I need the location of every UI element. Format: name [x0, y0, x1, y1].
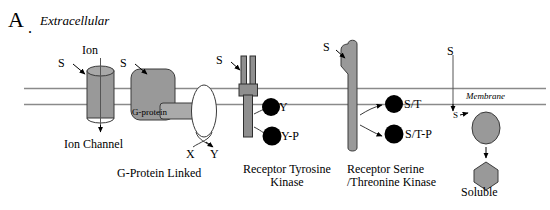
signal-label-soluble-internal: S [453, 111, 458, 120]
signal-label-tyrosine-kinase: S [216, 54, 223, 67]
ion-channel-receptor [73, 58, 114, 132]
serine-threonine-phospho-substrate [385, 125, 404, 144]
serine-threonine-phospho-label: S/T-P [405, 128, 432, 141]
caption-receptor-tyrosine-kinase: Receptor Tyrosine Kinase [232, 163, 342, 188]
signal-label-ion-channel: S [58, 57, 65, 70]
g-protein-label: G-protein [132, 108, 167, 117]
membrane-label: Membrane [466, 92, 505, 101]
caption-rtk-line-2: Kinase [232, 176, 342, 189]
receptor-serine-threonine-kinase-receptor [336, 40, 404, 151]
effector-y-label: Y [210, 148, 219, 161]
caption-rstk-line-2: /Threonine Kinase [347, 176, 472, 189]
tyrosine-substrate [262, 98, 280, 116]
ion-label: Ion [82, 44, 98, 57]
caption-receptor-serine-threonine-kinase: Receptor Serine /Threonine Kinase [347, 163, 472, 188]
signal-label-serine-threonine-kinase: S [323, 41, 330, 54]
caption-g-protein-linked: G-Protein Linked [117, 167, 201, 180]
receptor-tyrosine-kinase-receptor [231, 56, 282, 146]
serine-threonine-label: S/T [404, 98, 421, 111]
caption-rstk-line-1: Receptor Serine [347, 163, 472, 176]
panel-letter-dot: . [28, 20, 32, 37]
tyrosine-phospho-substrate [263, 127, 282, 146]
effector-x-label: X [186, 148, 195, 161]
caption-soluble: Soluble [461, 186, 498, 199]
g-protein-linked-receptor [131, 64, 217, 147]
panel-letter: A [8, 8, 24, 31]
tyrosine-label: Y [279, 101, 288, 114]
extracellular-label: Extracellular [40, 14, 109, 28]
caption-ion-channel: Ion Channel [64, 138, 123, 151]
signal-label-g-protein: S [120, 57, 127, 70]
serine-threonine-substrate [385, 95, 403, 113]
figure-panel: A . Extracellular Membrane S S S S S S I… [0, 0, 550, 210]
caption-rtk-line-1: Receptor Tyrosine [232, 163, 342, 176]
signal-label-soluble: S [447, 45, 454, 58]
tyrosine-phospho-label: Y-P [281, 130, 299, 143]
